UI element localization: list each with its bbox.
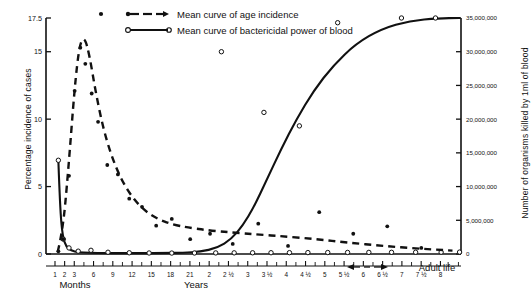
y-tick-right: 35,000,000 (466, 14, 498, 21)
x-tick-label: 5 (323, 271, 327, 278)
data-point-filled-circle (56, 249, 60, 253)
data-point-filled-circle (188, 237, 192, 241)
chart-figure: 05101517.5 05,000,00010,000,00015,000,00… (0, 0, 532, 296)
data-point-filled-circle (154, 224, 158, 228)
legend-item-bactericidal-power: Mean curve of bactericidal power of bloo… (126, 25, 353, 36)
data-point-filled-circle (140, 205, 144, 209)
y-tick-right: 15,000,000 (466, 149, 498, 156)
y-tick-right: 20,000,000 (466, 116, 498, 123)
data-point-filled-circle (231, 242, 235, 246)
data-point-open-circle (433, 16, 437, 20)
data-point-open-circle (297, 124, 301, 128)
x-tick-label: 3 (72, 271, 76, 278)
x-group-label-years: Years (184, 279, 208, 290)
x-adult-life-label: Adult life (419, 262, 455, 273)
adult-life-arrow-icon (347, 264, 388, 270)
data-point-open-circle (147, 251, 151, 255)
x-tick-label: 2 (63, 271, 67, 278)
x-group-label-months: Months (59, 279, 90, 290)
data-point-open-circle (219, 50, 223, 54)
data-point-open-circle (106, 250, 110, 254)
data-point-open-circle (170, 251, 174, 255)
x-tick-label: 6 ½ (377, 271, 388, 278)
data-point-filled-circle (317, 210, 321, 214)
data-point-filled-circle (351, 232, 355, 236)
x-tick-label: 15 (148, 271, 156, 278)
data-point-filled-circle (90, 92, 94, 96)
y-tick-right: 10,000,000 (466, 183, 498, 190)
x-tick-label: 21 (186, 271, 194, 278)
data-point-filled-circle (78, 46, 82, 50)
x-tick-label: 5 ½ (339, 271, 350, 278)
axis-frame (46, 18, 461, 266)
data-point-filled-circle (116, 173, 120, 177)
x-tick-label: 2 ½ (223, 271, 234, 278)
data-point-filled-circle (105, 163, 109, 167)
y-tick-right: 5,000,000 (466, 217, 494, 224)
y-tick-left: 17.5 (28, 14, 42, 23)
legend-item-age-incidence: Mean curve of age incidence (126, 9, 299, 20)
x-tick-label: 1 (53, 271, 57, 278)
data-point-open-circle (389, 250, 393, 254)
data-point-open-circle (269, 251, 273, 255)
data-point-open-circle (127, 251, 131, 255)
series-bactericidal-power (56, 16, 462, 255)
data-point-open-circle (367, 250, 371, 254)
x-tick-label: 3 (246, 271, 250, 278)
y-tick-left: 15 (34, 47, 42, 56)
x-tick-label: 7 (400, 271, 404, 278)
data-point-open-circle (76, 249, 80, 253)
data-point-open-circle (457, 250, 461, 254)
x-tick-label: 4 (284, 271, 288, 278)
x-tick-label: 12 (129, 271, 137, 278)
y-tick-right: 25,000,000 (466, 82, 498, 89)
x-tick-label: 4 ½ (300, 271, 311, 278)
y-axis-left-title: Percentage incidence of cases (23, 49, 33, 209)
data-point-open-circle (262, 110, 266, 114)
chart-legend: Mean curve of age incidence Mean curve o… (99, 9, 353, 36)
y-tick-left: 10 (34, 115, 42, 124)
data-point-open-circle (214, 251, 218, 255)
data-point-open-circle (250, 251, 254, 255)
legend-stray-marker-icon (99, 12, 103, 16)
x-tick-label: 9 (111, 271, 115, 278)
chart-canvas: 05101517.5 05,000,00010,000,00015,000,00… (0, 0, 532, 296)
data-point-filled-circle (61, 237, 65, 241)
data-point-filled-circle (67, 174, 71, 178)
data-point-filled-circle (385, 224, 389, 228)
legend-marker-filled-circle-icon (126, 12, 130, 16)
data-point-open-circle (306, 250, 310, 254)
series-age-incidence (56, 39, 452, 253)
x-tick-label: 6 (362, 271, 366, 278)
data-point-open-circle (67, 246, 71, 250)
legend-marker-open-circle-icon (126, 28, 131, 33)
data-point-open-circle (232, 251, 236, 255)
x-tick-label: 3 ½ (262, 271, 273, 278)
data-point-filled-circle (83, 62, 87, 66)
data-point-filled-circle (286, 244, 290, 248)
data-point-filled-circle (170, 217, 174, 221)
x-axis-ticks: 123691215182122 ½33 ½44 ½55 ½66 ½77 ½8 (53, 261, 458, 278)
legend-label-age-incidence: Mean curve of age incidence (177, 9, 298, 20)
y-axis-right-ticks: 05,000,00010,000,00015,000,00020,000,000… (456, 14, 498, 257)
data-point-open-circle (56, 158, 60, 162)
x-tick-label: 18 (167, 271, 175, 278)
data-point-filled-circle (419, 246, 423, 250)
data-point-filled-circle (127, 197, 131, 201)
data-point-open-circle (192, 251, 196, 255)
data-point-open-circle (89, 248, 93, 252)
data-point-open-circle (287, 250, 291, 254)
legend-label-bactericidal-power: Mean curve of bactericidal power of bloo… (177, 25, 353, 36)
data-point-filled-circle (96, 120, 100, 124)
data-point-filled-circle (256, 222, 260, 226)
x-tick-label: 6 (92, 271, 96, 278)
data-point-open-circle (326, 250, 330, 254)
x-tick-label: 2 (207, 271, 211, 278)
y-tick-right: 30,000,000 (466, 48, 498, 55)
y-tick-left: 0 (38, 250, 42, 259)
y-tick-left: 5 (38, 182, 42, 191)
data-point-open-circle (413, 250, 417, 254)
data-point-open-circle (345, 250, 349, 254)
y-axis-right-title: Number of organisms killed by 1ml of blo… (520, 38, 530, 228)
data-point-open-circle (399, 16, 403, 20)
